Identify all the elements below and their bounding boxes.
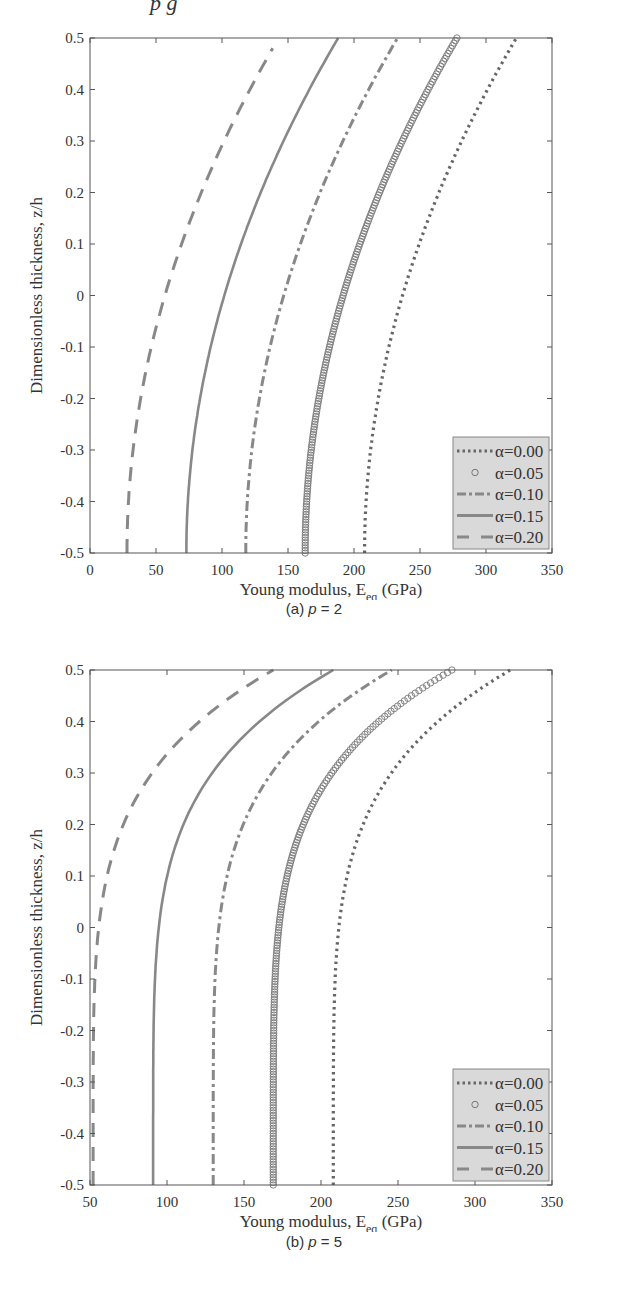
y-tick-label: 0 — [77, 920, 85, 936]
legend-label: α=0.15 — [495, 507, 543, 526]
y-tick-label: -0.1 — [60, 339, 84, 355]
x-axis-label: Young modulus, Eeq (GPa) — [240, 580, 422, 600]
caption-suffix: = 5 — [317, 1233, 342, 1250]
y-tick-label: 0.3 — [65, 765, 84, 781]
x-tick-label: 150 — [233, 1194, 256, 1210]
y-tick-label: -0.2 — [60, 1023, 84, 1039]
legend-label: α=0.10 — [495, 1117, 543, 1136]
legend-label: α=0.20 — [495, 528, 543, 547]
curve-020-line — [127, 48, 273, 553]
y-tick-label: 0.5 — [65, 30, 84, 46]
y-tick-label: 0.3 — [65, 133, 84, 149]
curve-015-line — [186, 38, 338, 553]
x-tick-label: 250 — [387, 1194, 410, 1210]
y-tick-label: 0.5 — [65, 662, 84, 678]
x-axis-label: Young modulus, Eeq (GPa) — [240, 1212, 422, 1232]
y-tick-label: 0 — [77, 288, 85, 304]
legend-label: α=0.00 — [495, 442, 543, 461]
y-tick-label: -0.5 — [60, 1177, 84, 1193]
x-tick-label: 200 — [343, 562, 366, 578]
y-axis-label: Dimensionless thickness, z/h — [27, 197, 46, 394]
x-tick-label: 300 — [475, 562, 498, 578]
legend-label: α=0.20 — [495, 1160, 543, 1179]
chart-b-plot: 50100150200250300350-0.5-0.4-0.3-0.2-0.1… — [0, 632, 628, 1232]
curve-005-circles — [270, 667, 455, 1188]
x-tick-label: 0 — [86, 562, 94, 578]
x-tick-label: 50 — [83, 1194, 98, 1210]
y-tick-label: 0.4 — [65, 82, 84, 98]
legend-label: α=0.05 — [495, 1096, 543, 1115]
y-tick-label: -0.4 — [60, 1126, 84, 1142]
caption-suffix: = 2 — [317, 600, 342, 617]
curve-020-line — [93, 670, 273, 1185]
caption-prefix: (b) — [286, 1233, 309, 1250]
legend-label: α=0.15 — [495, 1139, 543, 1158]
x-tick-label: 100 — [156, 1194, 179, 1210]
y-tick-label: -0.3 — [60, 1074, 84, 1090]
x-tick-label: 250 — [409, 562, 432, 578]
legend: α=0.00α=0.05α=0.10α=0.15α=0.20 — [453, 437, 549, 549]
chart-b-caption: (b) p = 5 — [0, 1233, 628, 1250]
x-tick-label: 200 — [310, 1194, 333, 1210]
y-axis-label: Dimensionless thickness, z/h — [27, 829, 46, 1026]
caption-variable: p — [308, 1233, 316, 1250]
chart-a-plot: 050100150200250300350-0.5-0.4-0.3-0.2-0.… — [0, 0, 628, 600]
y-tick-label: 0.1 — [65, 236, 84, 252]
curve-005-circles — [302, 35, 460, 556]
x-tick-label: 300 — [464, 1194, 487, 1210]
y-tick-label: 0.4 — [65, 714, 84, 730]
y-tick-label: -0.3 — [60, 442, 84, 458]
y-tick-label: -0.1 — [60, 971, 84, 987]
y-tick-label: 0.2 — [65, 817, 84, 833]
y-tick-label: -0.4 — [60, 494, 84, 510]
chart-a-caption: (a) p = 2 — [0, 600, 628, 617]
caption-prefix: (a) — [286, 600, 309, 617]
y-tick-label: -0.5 — [60, 545, 84, 561]
x-tick-label: 50 — [149, 562, 164, 578]
x-tick-label: 100 — [211, 562, 234, 578]
curves — [93, 667, 510, 1188]
x-tick-label: 350 — [541, 562, 564, 578]
legend: α=0.00α=0.05α=0.10α=0.15α=0.20 — [453, 1069, 549, 1181]
legend-label: α=0.05 — [495, 464, 543, 483]
curve-010-line — [246, 38, 398, 553]
curve-010-line — [213, 670, 392, 1185]
legend-label: α=0.00 — [495, 1074, 543, 1093]
x-tick-label: 350 — [541, 1194, 564, 1210]
y-tick-label: 0.2 — [65, 185, 84, 201]
curve-015-line — [153, 670, 333, 1185]
x-tick-label: 150 — [277, 562, 300, 578]
legend-label: α=0.10 — [495, 485, 543, 504]
y-tick-label: 0.1 — [65, 868, 84, 884]
caption-variable: p — [308, 600, 316, 617]
y-tick-label: -0.2 — [60, 391, 84, 407]
